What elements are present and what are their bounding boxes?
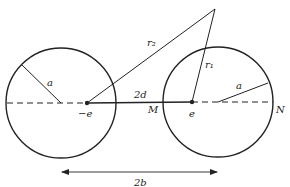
r1-label: r₁ xyxy=(205,59,214,70)
two-sphere-diagram: a a r₂ r₁ 2d −e e M N 2b xyxy=(0,0,290,187)
r2-label: r₂ xyxy=(147,37,156,48)
right-radius-line xyxy=(218,83,268,102)
separation-label: 2d xyxy=(133,89,147,100)
charge-separation-line xyxy=(87,102,192,103)
point-n-label: N xyxy=(275,104,286,115)
right-radius-label: a xyxy=(236,80,242,91)
left-radius-line xyxy=(22,65,61,103)
left-radius-label: a xyxy=(47,77,53,88)
point-m-label: M xyxy=(147,104,159,115)
positive-charge-label: e xyxy=(189,108,195,119)
negative-charge-label: −e xyxy=(78,108,92,119)
r2-line xyxy=(87,9,215,103)
center-distance-label: 2b xyxy=(133,177,147,187)
